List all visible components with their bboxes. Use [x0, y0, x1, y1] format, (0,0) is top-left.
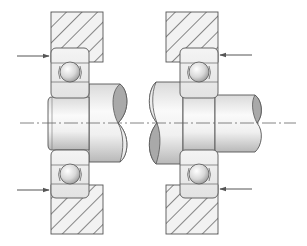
left-bearing-bottom [51, 150, 89, 198]
left-shaft-seat [48, 97, 89, 150]
left-shaft-break-face [113, 84, 127, 123]
ball-icon [60, 164, 80, 184]
right-bearing-bottom [180, 150, 218, 198]
left-bearing-top [51, 48, 89, 98]
bearing-arrangement-diagram [0, 0, 307, 246]
right-bearing-top [180, 48, 218, 98]
ball-icon [189, 62, 209, 82]
ball-icon [60, 62, 80, 82]
right-shaft-seat [183, 95, 215, 152]
ball-icon [189, 164, 209, 184]
